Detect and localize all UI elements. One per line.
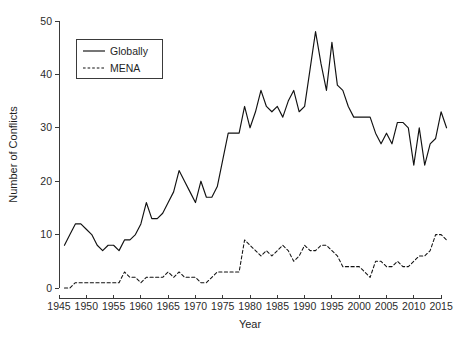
x-axis-title: Year xyxy=(239,318,262,330)
line-chart: 01020304050 Number of Conflicts 19451950… xyxy=(0,0,470,348)
x-tick-label-1980: 1980 xyxy=(238,300,262,312)
x-tick-label-2010: 2010 xyxy=(402,300,426,312)
legend-label-mena: MENA xyxy=(110,62,140,74)
y-tick-label-30: 30 xyxy=(40,121,52,133)
y-axis-title: Number of Conflicts xyxy=(7,106,19,203)
x-tick-label-1975: 1975 xyxy=(211,300,235,312)
chart-figure: 01020304050 Number of Conflicts 19451950… xyxy=(0,0,470,348)
x-tick-label-1945: 1945 xyxy=(47,300,71,312)
x-tick-label-1955: 1955 xyxy=(102,300,126,312)
x-tick-label-1960: 1960 xyxy=(129,300,153,312)
chart-background xyxy=(0,0,470,348)
y-tick-label-50: 50 xyxy=(40,15,52,27)
x-tick-label-2005: 2005 xyxy=(375,300,399,312)
legend-label-globally: Globally xyxy=(110,45,149,57)
y-tick-label-40: 40 xyxy=(40,68,52,80)
x-tick-label-2015: 2015 xyxy=(429,300,453,312)
y-tick-label-20: 20 xyxy=(40,175,52,187)
x-tick-label-1965: 1965 xyxy=(156,300,180,312)
y-tick-label-10: 10 xyxy=(40,228,52,240)
x-tick-label-1995: 1995 xyxy=(320,300,344,312)
x-tick-label-2000: 2000 xyxy=(348,300,372,312)
y-tick-label-0: 0 xyxy=(46,282,52,294)
x-tick-label-1970: 1970 xyxy=(184,300,208,312)
x-tick-label-1985: 1985 xyxy=(266,300,290,312)
x-tick-label-1950: 1950 xyxy=(75,300,99,312)
x-tick-label-group: 1945195019551960196519701975198019851990… xyxy=(47,300,453,312)
chart-legend: GloballyMENA xyxy=(76,39,162,78)
x-tick-label-1990: 1990 xyxy=(293,300,317,312)
